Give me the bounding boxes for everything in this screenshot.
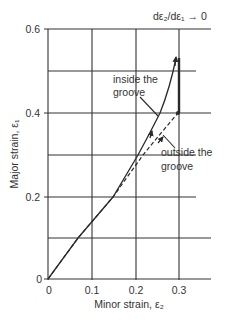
inside-label-line1: inside the xyxy=(113,73,158,85)
x-axis-label: Minor strain, ε₂ xyxy=(94,298,163,310)
y-tick-0: 0 xyxy=(36,273,42,285)
limit-annotation: dε₂/dε₁ → 0 xyxy=(153,10,207,22)
outside-label-line2: groove xyxy=(161,160,193,172)
x-tick-0.3: 0.3 xyxy=(172,284,187,296)
x-tick-0: 0 xyxy=(46,284,52,296)
outside-arrow-mid xyxy=(158,137,163,143)
x-tick-0.2: 0.2 xyxy=(129,284,144,296)
outside-end-point xyxy=(176,111,180,115)
outside-label-line1: outside the xyxy=(161,146,213,158)
outside-groove-curve xyxy=(48,113,178,279)
y-tick-0.6: 0.6 xyxy=(25,23,40,35)
y-axis-label: Major strain, ε₁ xyxy=(8,119,20,188)
y-tick-0.4: 0.4 xyxy=(25,107,40,119)
inside-groove-curve xyxy=(48,58,176,279)
forming-limit-chart: inside the groove outside the groove dε₂… xyxy=(0,0,225,324)
y-tick-0.2: 0.2 xyxy=(25,191,40,203)
inside-label-line2: groove xyxy=(113,86,145,98)
x-tick-0.1: 0.1 xyxy=(85,284,100,296)
inside-arrow-top xyxy=(175,57,176,66)
